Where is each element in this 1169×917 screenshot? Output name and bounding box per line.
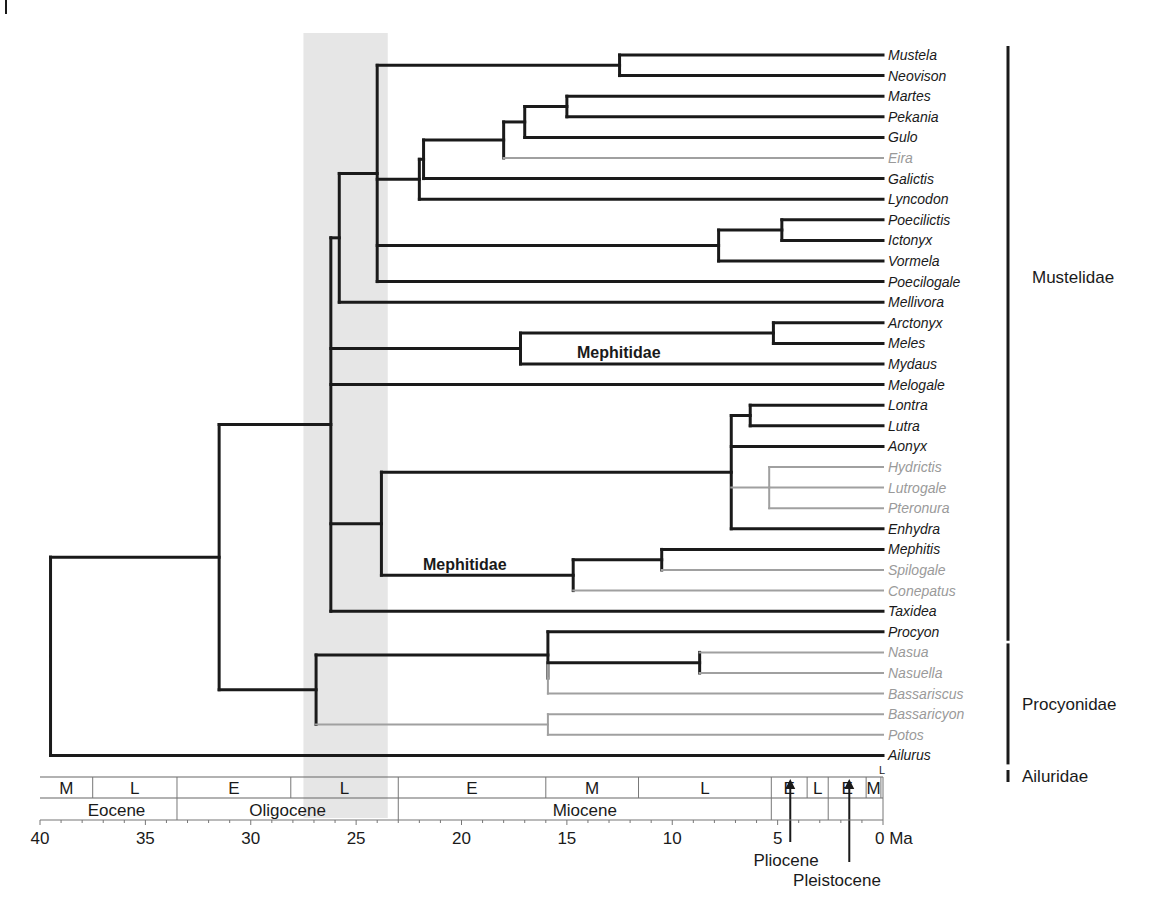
axis-tick-label: 0 Ma <box>875 829 913 848</box>
stage-label: L <box>700 779 709 798</box>
stage-label: M <box>866 779 880 798</box>
stage-label: M <box>59 779 73 798</box>
tip-label-enhydra: Enhydra <box>888 521 940 537</box>
tip-label-hydrictis: Hydrictis <box>888 459 942 475</box>
stage-label: L <box>130 779 139 798</box>
stage-label: M <box>585 779 599 798</box>
tip-label-arctonyx: Arctonyx <box>887 315 943 331</box>
tip-label-lutra: Lutra <box>888 418 920 434</box>
tip-label-mellivora: Mellivora <box>888 294 944 310</box>
tip-label-procyon: Procyon <box>888 624 940 640</box>
tip-label-neovison: Neovison <box>888 68 947 84</box>
tip-label-vormela: Vormela <box>888 253 940 269</box>
stage-label: E <box>228 779 239 798</box>
tip-label-conepatus: Conepatus <box>888 583 956 599</box>
tip-label-nasuella: Nasuella <box>888 665 943 681</box>
tip-label-ailurus: Ailurus <box>887 747 931 763</box>
axis-tick-label: 40 <box>31 829 50 848</box>
stage-label: L <box>340 779 349 798</box>
axis-tick-label: 10 <box>663 829 682 848</box>
tip-label-aonyx: Aonyx <box>887 438 928 454</box>
epoch-label-miocene: Miocene <box>553 801 617 820</box>
tip-label-pekania: Pekania <box>888 109 939 125</box>
axis-tick-label: 30 <box>241 829 260 848</box>
tip-label-pteronura: Pteronura <box>888 500 950 516</box>
stage-label: E <box>466 779 477 798</box>
tip-label-bassariscus: Bassariscus <box>888 686 963 702</box>
tip-label-spilogale: Spilogale <box>888 562 946 578</box>
tip-label-galictis: Galictis <box>888 171 934 187</box>
axis-tick-label: 25 <box>347 829 366 848</box>
axis-tick-label: 15 <box>557 829 576 848</box>
axis-tick-label: 5 <box>773 829 782 848</box>
tip-label-poecilictis: Poecilictis <box>888 212 950 228</box>
tip-label-potos: Potos <box>888 727 924 743</box>
time-axis: 4035302520151050 Ma <box>31 820 914 848</box>
phylogeny-canvas: MustelaNeovisonMartesPekaniaGuloEiraGali… <box>0 0 1169 917</box>
clade-label-mephitidae-lower: Mephitidae <box>423 556 507 573</box>
tip-label-ictonyx: Ictonyx <box>888 232 933 248</box>
tip-label-bassaricyon: Bassaricyon <box>888 706 964 722</box>
tip-label-poecilogale: Poecilogale <box>888 274 961 290</box>
tip-label-lutrogale: Lutrogale <box>888 480 947 496</box>
family-brackets: MustelidaeProcyonidaeAiluridae <box>1008 46 1117 786</box>
pleistocene-label: Pleistocene <box>793 871 881 890</box>
family-label-mustelidae: Mustelidae <box>1032 268 1114 287</box>
tip-labels: MustelaNeovisonMartesPekaniaGuloEiraGali… <box>887 47 964 763</box>
tree-branches <box>50 55 883 755</box>
axis-tick-label: 35 <box>136 829 155 848</box>
clade-label-mephitidae-upper: Mephitidae <box>577 344 661 361</box>
tip-label-melogale: Melogale <box>888 377 945 393</box>
tip-label-gulo: Gulo <box>888 129 918 145</box>
epoch-label-eocene: Eocene <box>88 801 146 820</box>
epoch-label-oligocene: Oligocene <box>249 801 326 820</box>
tip-label-meles: Meles <box>888 335 925 351</box>
clade-labels: MephitidaeMephitidae <box>423 344 661 573</box>
phylogeny-figure: MustelaNeovisonMartesPekaniaGuloEiraGali… <box>0 0 1169 917</box>
tip-label-eira: Eira <box>888 150 913 166</box>
tip-label-taxidea: Taxidea <box>888 603 937 619</box>
geologic-timescale: MLELEMLELEMLEoceneOligoceneMiocenePlioce… <box>40 764 885 890</box>
family-label-procyonidae: Procyonidae <box>1022 695 1117 714</box>
stage-label: L <box>813 779 822 798</box>
tip-label-nasua: Nasua <box>888 644 929 660</box>
tip-label-mephitis: Mephitis <box>888 541 940 557</box>
pliocene-label: Pliocene <box>753 851 818 870</box>
tip-label-martes: Martes <box>888 88 931 104</box>
tip-label-mustela: Mustela <box>888 47 937 63</box>
family-label-ailuridae: Ailuridae <box>1022 767 1088 786</box>
tip-label-lontra: Lontra <box>888 397 928 413</box>
tip-label-lyncodon: Lyncodon <box>888 191 949 207</box>
tip-label-mydaus: Mydaus <box>888 356 937 372</box>
stage-label: L <box>879 764 885 776</box>
axis-tick-label: 20 <box>452 829 471 848</box>
